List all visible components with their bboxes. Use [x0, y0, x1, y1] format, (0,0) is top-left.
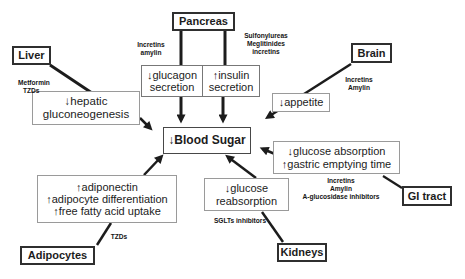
pancreas-label: Pancreas — [179, 15, 228, 27]
drug-label-incretins-amylin-brain: Incretins Amylin — [337, 76, 381, 92]
adipocyte-effects-line-2: ↑adipocyte differentiation — [46, 193, 168, 205]
insulin-line-2: secretion — [209, 81, 254, 93]
drug-label-metformin-tzds: Metformin TZDs — [18, 79, 62, 95]
insulin-secretion-box: ↑insulin secretion — [202, 65, 260, 97]
liver-box: Liver — [12, 46, 51, 65]
drug-label-line: Amylin — [337, 84, 381, 92]
drug-label-line: amylin — [128, 49, 174, 57]
hepatic-to-bloodsugar-arrow — [140, 118, 150, 128]
drug-label-line: Incretins — [337, 76, 381, 84]
brain-box: Brain — [351, 43, 392, 63]
adipocyte-effects-to-bloodsugar-arrow — [144, 157, 161, 175]
pancreas-box: Pancreas — [172, 12, 235, 31]
blood-sugar-box: ↓Blood Sugar — [163, 127, 251, 154]
drug-label-line: SGLTs inhibitors — [210, 217, 270, 225]
reabsorption-to-bloodsugar-arrow — [228, 157, 256, 178]
drug-label-sglts-inhibitors: SGLTs inhibitors — [210, 217, 270, 225]
adipocyte-effects-box: ↑adiponectin ↑adipocyte differentiation … — [37, 175, 177, 223]
drug-label-line: Meglitinides — [236, 40, 296, 48]
drug-label-line: Metformin — [18, 79, 62, 87]
gi-tract-label: GI tract — [408, 190, 447, 202]
kidneys-label: Kidneys — [281, 246, 324, 258]
drug-label-line: Amylin — [291, 185, 391, 193]
glucose-absorption-box: ↓glucose absorption ↑gastric emptying ti… — [273, 141, 400, 174]
adipocytes-box: Adipocytes — [20, 246, 95, 265]
glucagon-line-2: secretion — [150, 81, 195, 93]
glucose-reabsorption-box: ↓glucose reabsorption — [204, 178, 289, 211]
drug-label-line: incretins — [236, 48, 296, 56]
liver-label: Liver — [18, 49, 44, 61]
drug-label-line: A-glucosidase inhibitors — [291, 193, 391, 201]
drug-label-line: TZDs — [105, 233, 133, 241]
blood-sugar-label: ↓Blood Sugar — [168, 134, 245, 147]
absorption-line-1: ↓glucose absorption — [288, 145, 386, 157]
hepatic-gluconeogenesis-box: ↓hepatic gluconeogenesis — [32, 91, 140, 125]
absorption-line-2: ↑gastric emptying time — [282, 158, 391, 170]
hepatic-line-2: gluconeogenesis — [43, 108, 129, 121]
glucagon-secretion-box: ↓glucagon secretion — [141, 65, 203, 97]
adipocytes-label: Adipocytes — [28, 249, 87, 261]
reabsorption-line-1: ↓glucose — [225, 182, 268, 194]
drug-label-line: Incretins — [291, 177, 391, 185]
appetite-box: ↓appetite — [272, 93, 330, 112]
appetite-label: ↓appetite — [279, 96, 324, 108]
hepatic-line-1: ↓hepatic — [65, 95, 108, 108]
drug-label-gi-incretins: Incretins Amylin A-glucosidase inhibitor… — [291, 177, 391, 201]
kidneys-box: Kidneys — [277, 243, 327, 262]
drug-label-incretins-amylin-pancreas: Incretins amylin — [128, 41, 174, 57]
blood-sugar-pathway-diagram: Pancreas Liver Brain GI tract Adipocytes… — [0, 0, 465, 279]
gi-tract-box: GI tract — [402, 186, 452, 206]
adipocyte-effects-line-1: ↑adiponectin — [76, 181, 138, 193]
drug-label-line: TZDs — [18, 87, 62, 95]
adipocyte-effects-line-3: ↑free fatty acid uptake — [53, 205, 161, 217]
glucagon-line-1: ↓glucagon — [147, 69, 197, 81]
drug-label-line: Incretins — [128, 41, 174, 49]
insulin-line-1: ↑insulin — [213, 69, 250, 81]
brain-label: Brain — [357, 47, 385, 59]
drug-label-tzds: TZDs — [105, 233, 133, 241]
reabsorption-line-2: reabsorption — [216, 195, 277, 207]
drug-label-sulfonylureas: Sulfonylureas Meglitinides incretins — [236, 32, 296, 56]
drug-label-line: Sulfonylureas — [236, 32, 296, 40]
